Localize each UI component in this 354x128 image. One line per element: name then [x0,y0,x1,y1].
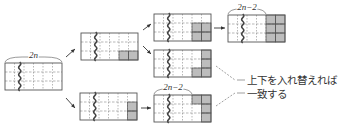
arrow-upper-to-final [214,26,225,30]
note-line-1: 上下を入れ替えれば [247,74,337,87]
note-line-2: 一致する [247,88,287,101]
pointer-line-upper [216,66,235,80]
arrow-lower-to-final [141,106,151,110]
grid-upper-mid [81,32,138,61]
grid-upper-upper [154,13,211,42]
grid-final-top: 2n−2 [228,2,285,43]
grid-start: 2n [5,50,62,91]
width-label: 2n [29,50,39,60]
arrow-start-to-upper [66,49,75,57]
diagram-canvas: 2n2n−22n−2 上下を入れ替えれば 一致する [0,0,354,128]
pointer-line-lower [216,93,235,106]
arrow-upper-to-upper [143,24,151,30]
grid-upper-lower [154,49,211,78]
arrow-upper-to-middle [143,46,151,54]
grid-lower-final: 2n−2 [154,82,211,123]
grid-lower-mid [80,92,137,121]
tiling-diagram: 2n2n−22n−2 [0,0,354,128]
width-label: 2n−2 [237,2,257,12]
arrow-start-to-lower [66,98,75,108]
width-label: 2n−2 [163,82,183,92]
